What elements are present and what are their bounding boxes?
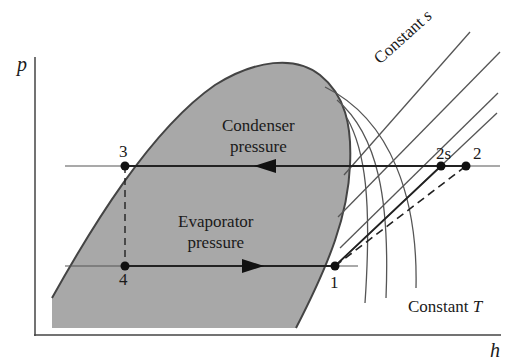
x-axis-label: h: [490, 340, 500, 360]
evaporator-pressure-label: Evaporator pressure: [178, 211, 254, 253]
actual-compression-line: [335, 166, 466, 266]
point-1-label: 1: [330, 274, 339, 291]
condenser-label-line2: pressure: [222, 136, 295, 157]
condenser-pressure-label: Condenser pressure: [222, 115, 295, 157]
y-axis-label: p: [17, 54, 27, 74]
point-1: [331, 262, 340, 271]
point-3-label: 3: [119, 143, 128, 160]
point-2: [462, 162, 471, 171]
evaporator-label-line1: Evaporator: [178, 211, 254, 232]
condenser-label-line1: Condenser: [222, 115, 295, 136]
constant-t-text: Constant: [408, 297, 473, 316]
point-2s-label: 2s: [436, 145, 451, 162]
constant-t-label: Constant T: [408, 298, 482, 315]
evaporator-label-line2: pressure: [178, 232, 254, 253]
point-2-label: 2: [473, 145, 482, 162]
isentropic-compression-line: [335, 166, 441, 266]
point-3: [121, 162, 130, 171]
point-4-label: 4: [119, 271, 128, 288]
vapor-dome: [52, 63, 350, 328]
constant-t-symbol: T: [473, 297, 482, 316]
